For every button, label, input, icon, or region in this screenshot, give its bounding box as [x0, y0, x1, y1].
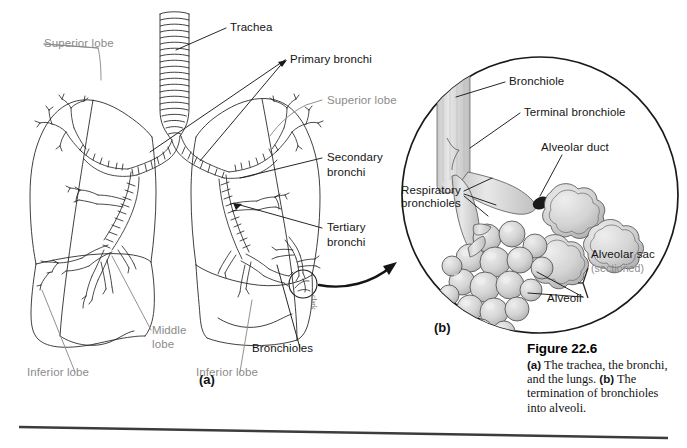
label-alveolar-sac: Alveolar sac [591, 248, 655, 261]
label-alveolar-sac-sectioned: (sectioned) [591, 262, 644, 275]
bottom-divider [19, 427, 668, 438]
trachea-shape [160, 12, 189, 140]
caption-b-prefix: (b) [599, 372, 614, 385]
label-terminal-bronchiole: Terminal bronchiole [524, 106, 626, 119]
label-alveoli: Alveoli [547, 292, 582, 305]
label-trachea: Trachea [230, 21, 272, 34]
leader-inferior-lobe-right [240, 300, 252, 372]
label-bronchiole: Bronchiole [509, 75, 564, 88]
leader-primary-bronchi-left [150, 60, 285, 152]
label-inferior-lobe-left: Inferior lobe [27, 366, 89, 379]
leader-inferior-lobe-left [42, 290, 75, 372]
label-primary-bronchi: Primary bronchi [290, 53, 372, 66]
label-tertiary-bronchi-line2: bronchi [327, 236, 365, 249]
artist-signature: clark [309, 295, 318, 310]
leader-tertiary-bronchi [240, 205, 322, 228]
label-superior-lobe-right: Superior lobe [327, 94, 397, 107]
label-superior-lobe-left: Superior lobe [44, 37, 114, 50]
leader-primary-bronchi-right [200, 60, 285, 161]
caption-title: Figure 22.6 [527, 341, 677, 356]
label-alveolar-duct: Alveolar duct [541, 141, 609, 154]
leader-trachea [176, 28, 226, 50]
left-lung-outline [30, 100, 156, 347]
label-middle-lobe-line2: lobe [152, 338, 174, 351]
label-secondary-bronchi-line1: Secondary [327, 151, 383, 164]
label-respiratory-bronchioles-line1: Respiratory [401, 184, 461, 197]
panel-b-tag: (b) [434, 320, 451, 335]
magnification-arrow [319, 262, 397, 287]
caption-a-text: The trachea, the bronchi, and the lungs. [527, 358, 668, 386]
panel-a-tag: (a) [199, 372, 215, 387]
bronchiole-trunk [437, 70, 470, 193]
label-bronchioles: Bronchioles [252, 342, 313, 355]
figure-22-6: Trachea Primary bronchi Superior lobe Su… [0, 0, 687, 448]
leader-middle-lobe [112, 256, 151, 330]
label-secondary-bronchi-line2: bronchi [327, 166, 365, 179]
figure-caption: Figure 22.6 (a) The trachea, the bronchi… [527, 341, 677, 415]
caption-a-prefix: (a) [527, 358, 541, 371]
leader-secondary-bronchi [240, 158, 322, 178]
label-respiratory-bronchioles-line2: bronchioles [401, 197, 461, 210]
label-tertiary-bronchi-line1: Tertiary [327, 221, 366, 234]
leader-superior-lobe-right [270, 100, 322, 136]
caption-body: (a) The trachea, the bronchi, and the lu… [527, 358, 677, 415]
leader-bronchioles [277, 265, 300, 348]
label-middle-lobe-line1: Middle [152, 324, 186, 337]
